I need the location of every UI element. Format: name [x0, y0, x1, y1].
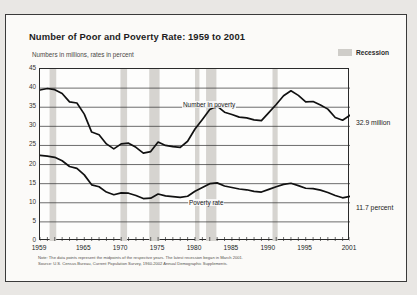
x-axis-tick-label: 1990	[253, 244, 283, 251]
x-axis-tick-label: 2001	[334, 244, 364, 251]
end-value-poverty-rate: 11.7 percent	[356, 204, 393, 211]
y-axis-tick-label: 0	[20, 236, 36, 243]
y-axis-tick-label: 30	[20, 121, 36, 128]
recession-swatch-icon	[338, 49, 352, 56]
x-axis-tick-label: 1980	[179, 244, 209, 251]
figure-panel: Number of Poor and Poverty Rate: 1959 to…	[5, 14, 407, 282]
source-line: Source: U.S. Census Bureau, Current Popu…	[38, 261, 368, 267]
x-axis-tick-label: 1970	[105, 244, 135, 251]
end-value-number-in-poverty: 32.9 million	[356, 119, 390, 126]
recession-bands	[50, 69, 350, 241]
x-axis-tick-label: 1959	[24, 244, 54, 251]
page-title: Number of Poor and Poverty Rate: 1959 to…	[29, 31, 245, 42]
chart-subtitle: Numbers in millions, rates in percent	[32, 51, 134, 58]
x-axis-tick-label: 1995	[290, 244, 320, 251]
legend-label-recession: Recession	[356, 49, 389, 56]
x-axis-tick-label: 1985	[216, 244, 246, 251]
y-axis-tick-label: 10	[20, 198, 36, 205]
legend: Recession	[338, 49, 389, 56]
figure-notes: Note: The data points represent the midp…	[38, 255, 368, 267]
x-axis-tick-label: 1975	[142, 244, 172, 251]
y-axis-tick-label: 25	[20, 140, 36, 147]
chart-canvas	[40, 69, 350, 241]
y-axis-tick-label: 45	[20, 64, 36, 71]
plot-area	[39, 68, 349, 240]
y-axis-tick-label: 20	[20, 160, 36, 167]
y-axis-tick-label: 5	[20, 217, 36, 224]
series-label-poverty-rate: Poverty rate	[188, 199, 224, 206]
series-label-number-in-poverty: Number in poverty	[182, 101, 236, 108]
y-axis-tick-label: 40	[20, 83, 36, 90]
x-axis-ticks	[40, 237, 350, 241]
y-axis-tick-label: 15	[20, 179, 36, 186]
y-axis-tick-label: 35	[20, 102, 36, 109]
x-axis-tick-label: 1965	[68, 244, 98, 251]
